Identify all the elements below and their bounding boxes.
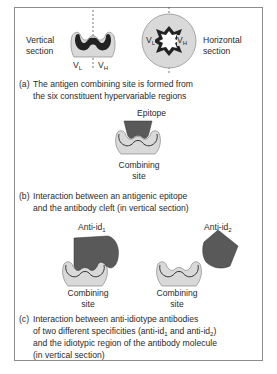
anti-id1-sub: 1 — [102, 227, 105, 233]
caption-tag: (c) — [19, 313, 29, 325]
label-line: Combining — [109, 160, 169, 171]
combining-site-label-c1: Combining site — [58, 288, 118, 310]
epitope-binding-diagram — [113, 119, 163, 159]
label-line: Combining — [147, 288, 207, 299]
caption-a: (a) The antigen combining site is formed… — [19, 78, 259, 104]
vl-sub: L — [79, 65, 82, 71]
caption-text: Interaction between anti-idiotype antibo… — [33, 313, 217, 361]
caption-line: the six constituent hypervariable region… — [33, 90, 193, 102]
vh-sub: H — [183, 40, 187, 46]
anti-id1-main: Anti-id — [78, 222, 102, 232]
caption-line: (in vertical section) — [33, 349, 217, 361]
label-line: section — [203, 46, 242, 57]
caption-fragment: and anti-id — [168, 326, 211, 336]
caption-text: Interaction between an antigenic epitope… — [33, 190, 189, 214]
anti-id1-label: Anti-id1 — [78, 222, 106, 233]
anti-id2-binding-diagram — [150, 226, 240, 296]
vl-label: VL — [73, 60, 82, 71]
label-line: site — [147, 299, 207, 310]
caption-c: (c) Interaction between anti-idiotype an… — [19, 313, 259, 361]
caption-line: and the idiotypic region of the antibody… — [33, 337, 217, 349]
caption-b: (b) Interaction between an antigenic epi… — [19, 190, 259, 216]
caption-line: The antigen combining site is formed fro… — [33, 78, 193, 90]
vertical-section-label: Vertical section — [26, 35, 54, 57]
caption-line: of two different specificities (anti-id1… — [33, 325, 217, 337]
anti-id1-binding-diagram — [60, 234, 130, 294]
caption-line: and the antibody cleft (in vertical sect… — [33, 202, 189, 214]
caption-tag: (b) — [19, 190, 30, 202]
combining-site-label-b: Combining site — [109, 160, 169, 182]
vl-label-horizontal: VL — [146, 35, 155, 46]
vh-label-horizontal: VH — [177, 35, 187, 46]
horizontal-section-label: Horizontal section — [203, 35, 242, 57]
label-line: Horizontal — [203, 35, 242, 46]
combining-site-label-c2: Combining site — [147, 288, 207, 310]
vl-sub: L — [152, 40, 155, 46]
caption-fragment: ) — [213, 326, 216, 336]
label-line: Vertical — [26, 35, 54, 46]
vh-label: VH — [98, 60, 108, 71]
caption-fragment: of two different specificities (anti-id — [33, 326, 164, 336]
caption-line: Interaction between anti-idiotype antibo… — [33, 313, 217, 325]
label-line: site — [109, 171, 169, 182]
vh-sub: H — [104, 65, 108, 71]
label-line: Combining — [58, 288, 118, 299]
caption-line: Interaction between an antigenic epitope — [33, 190, 189, 202]
caption-tag: (a) — [19, 78, 30, 90]
epitope-label: Epitope — [137, 108, 166, 119]
label-line: site — [58, 299, 118, 310]
caption-text: The antigen combining site is formed fro… — [33, 78, 193, 102]
label-line: section — [26, 46, 54, 57]
